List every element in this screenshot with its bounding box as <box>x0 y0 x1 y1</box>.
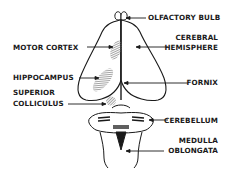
cerebellum-shape <box>89 105 154 133</box>
label-cerebellum: CEREBELLUM <box>164 117 218 124</box>
olfactory-bulb-shape <box>115 12 127 20</box>
cerebral-hemispheres-shape <box>78 20 166 101</box>
superior-colliculus-shade <box>106 97 116 106</box>
medulla-oblongata-shape <box>100 132 142 168</box>
label-medulla-oblongata-line2: OBLONGATA <box>168 147 218 154</box>
label-olfactory-bulb: OLFACTORY BULB <box>148 14 220 21</box>
label-fornix: FORNIX <box>187 79 218 86</box>
label-motor-cortex: MOTOR CORTEX <box>13 44 78 51</box>
label-cerebral-hemisphere-line1: CEREBRAL <box>175 34 218 41</box>
label-superior-colliculus-line1: SUPERIOR <box>13 89 55 96</box>
label-hippocampus: HIPPOCAMPUS <box>13 74 74 81</box>
label-superior-colliculus-line2: COLLICULUS <box>13 100 64 107</box>
label-cerebral-hemisphere-line2: HEMISPHERE <box>164 44 218 51</box>
label-medulla-oblongata-line1: MEDULLA <box>179 137 218 144</box>
